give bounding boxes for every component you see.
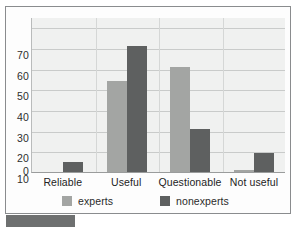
bar-nonexperts-questionable[interactable] [190, 129, 210, 172]
bar-group-reliable [32, 18, 96, 172]
y-tick-30: 30 [3, 132, 29, 144]
y-tick-40: 40 [3, 111, 29, 123]
bar-nonexperts-reliable[interactable] [63, 162, 83, 172]
legend-swatch-experts-icon [62, 196, 72, 206]
y-tick-20: 20 [3, 152, 29, 164]
bar-nonexperts-useful[interactable] [127, 46, 147, 172]
bar-experts-useful[interactable] [107, 81, 127, 172]
legend-label-experts: experts [78, 195, 113, 207]
chart-legend: experts nonexperts [31, 195, 285, 211]
bar-experts-not-useful[interactable] [234, 170, 254, 172]
legend-label-nonexperts: nonexperts [176, 195, 229, 207]
y-axis: 70 60 50 40 30 20 10 0 [0, 18, 29, 173]
bar-group-not-useful [223, 18, 287, 172]
y-tick-0: 0 [3, 165, 29, 177]
bar-chart-figure: 70 60 50 40 30 20 10 0 [0, 0, 298, 230]
x-label-reliable: Reliable [31, 176, 95, 188]
legend-swatch-nonexperts-icon [160, 196, 170, 206]
scan-artifact-block [6, 215, 75, 227]
y-tick-70: 70 [3, 49, 29, 61]
bar-nonexperts-not-useful[interactable] [254, 153, 274, 172]
bar-group-useful [96, 18, 160, 172]
legend-item-nonexperts[interactable]: nonexperts [160, 195, 229, 207]
bar-group-questionable [159, 18, 223, 172]
x-label-not-useful: Not useful [223, 176, 285, 188]
legend-item-experts[interactable]: experts [62, 195, 113, 207]
plot-area [31, 18, 285, 173]
x-label-useful: Useful [95, 176, 159, 188]
x-label-questionable: Questionable [156, 176, 224, 188]
x-axis-labels: Reliable Useful Questionable Not useful [31, 176, 285, 192]
y-tick-50: 50 [3, 90, 29, 102]
bar-experts-questionable[interactable] [170, 67, 190, 172]
y-tick-60: 60 [3, 70, 29, 82]
